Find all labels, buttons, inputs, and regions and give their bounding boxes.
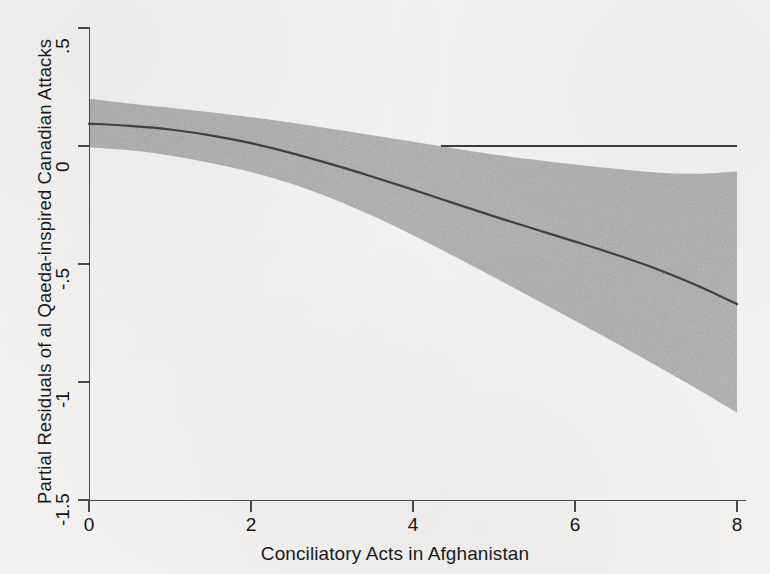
plot-canvas xyxy=(0,0,770,574)
x-axis-tick-label: 6 xyxy=(545,514,605,536)
y-axis-tick-label: -.5 xyxy=(52,268,74,290)
x-axis-tick-label: 2 xyxy=(221,514,281,536)
x-axis-tick-label: 0 xyxy=(59,514,119,536)
y-axis-tick-label: .5 xyxy=(52,38,74,54)
x-axis-title: Conciliatory Acts in Afghanistan xyxy=(10,543,770,565)
y-axis-tick-label: 0 xyxy=(52,161,74,172)
y-axis-ticks xyxy=(78,28,90,500)
x-axis-tick-label: 4 xyxy=(383,514,443,536)
figure-panel: Partial Residuals of al Qaeda-inspired C… xyxy=(0,0,770,574)
y-axis-tick-label: -1 xyxy=(52,391,74,408)
x-axis-ticks xyxy=(89,501,737,513)
x-axis-tick-label: 8 xyxy=(707,514,767,536)
